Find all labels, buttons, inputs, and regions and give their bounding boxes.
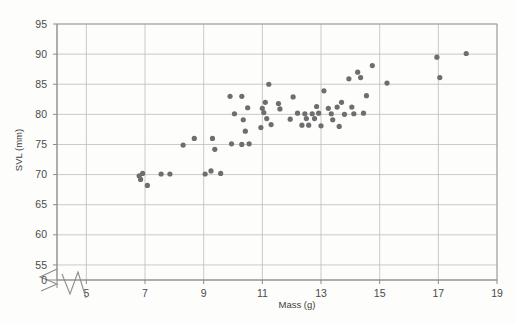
data-point — [358, 75, 363, 80]
data-point — [302, 111, 307, 116]
x-tick-label: 13 — [315, 287, 327, 299]
data-point — [314, 104, 319, 109]
data-point — [464, 51, 469, 56]
x-axis-tick-labels: 5791113151719 — [83, 280, 503, 299]
data-point — [326, 106, 331, 111]
data-point — [192, 136, 197, 141]
x-axis-title: Mass (g) — [279, 299, 316, 310]
data-point — [266, 82, 271, 87]
gridlines-group — [57, 24, 497, 280]
data-point — [370, 63, 375, 68]
data-point — [167, 171, 172, 176]
data-point — [364, 93, 369, 98]
data-point — [339, 100, 344, 105]
y-axis-title: SVL (mm) — [13, 129, 24, 171]
y-tick-label: 60 — [35, 228, 47, 240]
data-point — [241, 117, 246, 122]
x-tick-label: 9 — [201, 287, 207, 299]
data-point — [291, 94, 296, 99]
plot-frame — [47, 24, 497, 288]
data-point — [310, 111, 315, 116]
data-point — [318, 123, 323, 128]
data-point — [288, 117, 293, 122]
y-tick-label: 75 — [35, 138, 47, 150]
data-point — [181, 142, 186, 147]
x-tick-label: 19 — [491, 287, 503, 299]
data-point — [159, 171, 164, 176]
data-point — [384, 80, 389, 85]
y-tick-label: 65 — [35, 198, 47, 210]
data-point — [304, 116, 309, 121]
data-point — [434, 55, 439, 60]
data-point — [138, 177, 143, 182]
data-point — [437, 75, 442, 80]
data-point — [243, 129, 248, 134]
data-point — [212, 147, 217, 152]
data-point — [229, 141, 234, 146]
data-point — [321, 88, 326, 93]
data-point — [218, 171, 223, 176]
y-tick-label: 55 — [35, 259, 47, 271]
data-point — [277, 106, 282, 111]
data-point — [306, 123, 311, 128]
data-point — [269, 122, 274, 127]
data-point — [349, 105, 354, 110]
data-point — [239, 94, 244, 99]
y-axis-tick-labels: 556065707580859095 — [35, 18, 57, 271]
data-point — [145, 183, 150, 188]
data-point — [203, 171, 208, 176]
x-tick-label: 7 — [142, 287, 148, 299]
y-tick-label: 70 — [35, 168, 47, 180]
data-point — [361, 111, 366, 116]
data-point — [316, 111, 321, 116]
data-point — [329, 111, 334, 116]
scatter-plot-canvas: 5791113151719 556065707580859095 Mass (g… — [0, 0, 516, 324]
data-point — [208, 168, 213, 173]
data-point — [232, 111, 237, 116]
y-tick-label: 95 — [35, 18, 47, 30]
data-points-group — [137, 51, 469, 188]
y-tick-label: 85 — [35, 78, 47, 90]
y-tick-label: 80 — [35, 108, 47, 120]
x-tick-label: 15 — [374, 287, 386, 299]
data-point — [312, 116, 317, 121]
y-tick-label: 90 — [35, 48, 47, 60]
data-point — [299, 123, 304, 128]
data-point — [276, 101, 281, 106]
data-point — [258, 125, 263, 130]
data-point — [140, 171, 145, 176]
data-point — [264, 116, 269, 121]
scatter-plot-figure: 5791113151719 556065707580859095 Mass (g… — [0, 0, 516, 324]
data-point — [355, 70, 360, 75]
x-tick-label: 11 — [257, 287, 268, 299]
data-point — [263, 100, 268, 105]
origin-tick-label: 0 — [41, 274, 47, 286]
data-point — [337, 124, 342, 129]
data-point — [342, 112, 347, 117]
data-point — [245, 105, 250, 110]
data-point — [227, 94, 232, 99]
data-point — [330, 117, 335, 122]
data-point — [261, 110, 266, 115]
data-point — [295, 111, 300, 116]
data-point — [210, 136, 215, 141]
data-point — [239, 142, 244, 147]
x-tick-label: 17 — [432, 287, 444, 299]
data-point — [351, 111, 356, 116]
data-point — [335, 105, 340, 110]
data-point — [247, 141, 252, 146]
data-point — [346, 76, 351, 81]
